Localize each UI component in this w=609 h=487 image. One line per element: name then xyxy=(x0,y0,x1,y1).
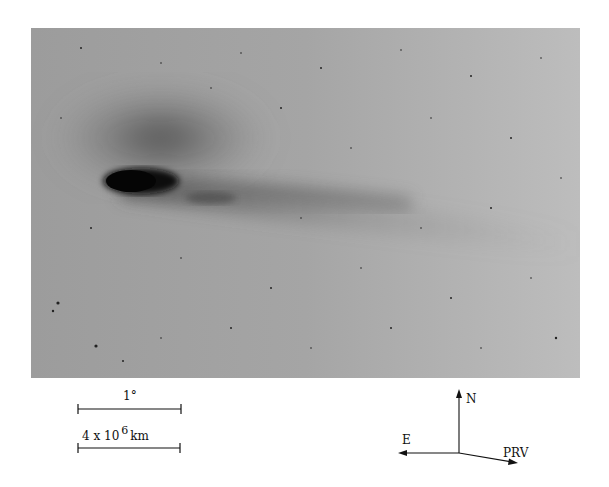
east-arrow-icon xyxy=(398,450,407,456)
east-label: E xyxy=(402,434,411,446)
north-arrow-icon xyxy=(456,389,462,398)
compass-rose xyxy=(398,389,518,465)
prv-label: PRV xyxy=(503,447,528,459)
distance-scale-bar xyxy=(78,443,180,453)
annotation-overlay xyxy=(0,0,609,487)
angular-scale-bar xyxy=(78,404,181,414)
north-label: N xyxy=(466,393,477,405)
